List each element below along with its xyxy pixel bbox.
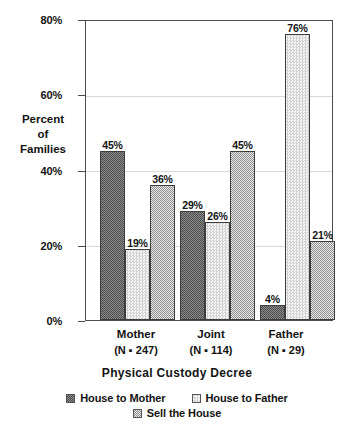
legend-label-house-to-father: House to Father: [206, 392, 288, 404]
legend-item-sell-the-house[interactable]: Sell the House: [133, 407, 221, 419]
y-axis-tick-mark-40: [78, 171, 85, 172]
y-axis-tick-mark-20: [78, 246, 85, 247]
bar-value-label-father-house-to-father: 76%: [280, 23, 315, 34]
legend-swatch-house-to-mother-icon: [66, 394, 75, 403]
x-axis-category-father-name: Father: [231, 326, 341, 342]
bar-value-label-father-house-to-mother: 4%: [255, 294, 290, 305]
bar-value-label-mother-house-to-mother: 45%: [95, 140, 130, 151]
y-axis-tick-mark-0: [78, 321, 85, 322]
legend-label-sell-the-house: Sell the House: [147, 407, 221, 419]
legend-label-house-to-mother: House to Mother: [80, 392, 165, 404]
y-axis-title: Percent of Families: [6, 112, 80, 157]
bar-joint-house-to-father[interactable]: [205, 222, 230, 320]
y-axis-tick-mark-80: [78, 20, 85, 21]
bar-value-label-father-sell-the-house: 21%: [305, 230, 340, 241]
legend-item-house-to-mother[interactable]: House to Mother: [66, 392, 165, 404]
y-axis-title-line-3: Families: [6, 142, 80, 157]
chart-legend: House to Mother House to Father Sell the…: [0, 392, 354, 422]
bar-mother-sell-the-house[interactable]: [150, 185, 175, 320]
legend-row-2: Sell the House: [0, 407, 354, 419]
bar-mother-house-to-father[interactable]: [125, 249, 150, 320]
bar-father-house-to-father[interactable]: [285, 34, 310, 320]
y-axis-tick-label-60: 60%: [6, 90, 62, 101]
y-axis-tick-label-80: 80%: [6, 15, 62, 26]
bar-value-label-mother-sell-the-house: 36%: [145, 174, 180, 185]
legend-row-1: House to Mother House to Father: [0, 392, 354, 404]
x-axis-category-father: Father (N ▪ 29): [231, 326, 341, 358]
y-axis-title-line-1: Percent: [6, 112, 80, 127]
legend-swatch-sell-the-house-icon: [133, 409, 142, 418]
bar-value-label-joint-house-to-father: 26%: [200, 211, 235, 222]
y-axis-title-line-2: of: [6, 127, 80, 142]
bar-value-label-joint-sell-the-house: 45%: [225, 140, 260, 151]
bar-value-label-joint-house-to-mother: 29%: [175, 200, 210, 211]
legend-item-house-to-father[interactable]: House to Father: [192, 392, 288, 404]
legend-swatch-house-to-father-icon: [192, 394, 201, 403]
y-axis-tick-label-40: 40%: [6, 166, 62, 177]
bar-father-house-to-mother[interactable]: [260, 305, 285, 320]
bar-mother-house-to-mother[interactable]: [100, 151, 125, 320]
y-axis-tick-label-0: 0%: [6, 316, 62, 327]
bar-chart-figure: 80% 60% 40% 20% 0% Percent of Families 4…: [0, 0, 354, 435]
y-axis-tick-mark-60: [78, 95, 85, 96]
x-axis-title: Physical Custody Decree: [0, 366, 354, 380]
bar-value-label-mother-house-to-father: 19%: [120, 238, 155, 249]
y-axis-tick-label-20: 20%: [6, 241, 62, 252]
bar-joint-house-to-mother[interactable]: [180, 211, 205, 320]
bar-father-sell-the-house[interactable]: [310, 241, 335, 320]
bar-joint-sell-the-house[interactable]: [230, 151, 255, 320]
plot-area: 45% 19% 36% 29% 26% 45% 4% 76% 21%: [85, 20, 333, 321]
x-axis-category-father-n: (N ▪ 29): [231, 342, 341, 358]
